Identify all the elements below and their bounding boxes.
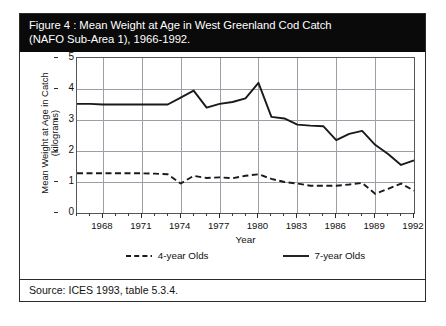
x-tick-mark-minor — [206, 213, 207, 216]
legend-label: 4-year Olds — [158, 250, 209, 261]
series-line-4-year-olds — [77, 173, 414, 193]
x-tick-mark-major — [374, 213, 375, 218]
chart-body: Mean Weight at Age in Catch (kilograms) … — [20, 52, 425, 279]
plot-wrapper: Mean Weight at Age in Catch (kilograms) … — [20, 52, 425, 279]
figure-title-bar: Figure 4 : Mean Weight at Age in West Gr… — [20, 14, 425, 52]
series-line-7-year-olds — [77, 83, 414, 165]
y-axis-ticks: 012345 — [58, 52, 74, 279]
y-tick-label: 4 — [60, 82, 74, 93]
figure-container: Figure 4 : Mean Weight at Age in West Gr… — [19, 13, 426, 302]
x-tick-mark-minor — [128, 213, 129, 216]
plot-area — [76, 57, 415, 214]
x-tick-label: 1992 — [402, 220, 423, 231]
x-tick-mark-minor — [167, 213, 168, 216]
x-tick-mark-major — [102, 213, 103, 218]
x-tick-label: 1986 — [325, 220, 346, 231]
x-tick-label: 1989 — [363, 220, 384, 231]
legend-label: 7-year Olds — [315, 250, 366, 261]
x-tick-mark-minor — [232, 213, 233, 216]
y-tick-label: 0 — [60, 206, 74, 217]
series-lines — [77, 58, 414, 213]
y-tick-mark — [54, 119, 58, 120]
x-tick-mark-major — [257, 213, 258, 218]
x-tick-mark-minor — [193, 213, 194, 216]
x-tick-label: 1968 — [91, 220, 112, 231]
y-tick-label: 3 — [60, 113, 74, 124]
x-tick-mark-minor — [115, 213, 116, 216]
y-tick-mark — [54, 57, 58, 58]
source-note: Source: ICES 1993, table 5.3.4. — [20, 280, 425, 301]
x-tick-mark-minor — [309, 213, 310, 216]
x-tick-mark-major — [413, 213, 414, 218]
x-axis-ticks — [76, 213, 413, 219]
x-axis-tick-labels: 196819711974197719801983198619891992 — [76, 220, 413, 232]
x-tick-mark-major — [219, 213, 220, 218]
x-tick-mark-minor — [322, 213, 323, 216]
x-tick-mark-minor — [283, 213, 284, 216]
y-tick-mark — [54, 150, 58, 151]
x-tick-mark-major — [141, 213, 142, 218]
y-tick-mark — [54, 88, 58, 89]
figure-title-line-2: (NAFO Sub-Area 1), 1966-1992. — [29, 33, 417, 47]
legend-item: 7-year Olds — [283, 250, 366, 261]
x-tick-mark-minor — [154, 213, 155, 216]
x-tick-mark-minor — [387, 213, 388, 216]
x-tick-mark-minor — [89, 213, 90, 216]
legend-swatch-dashed — [126, 252, 152, 260]
x-tick-label: 1971 — [130, 220, 151, 231]
x-tick-mark-minor — [400, 213, 401, 216]
x-axis-title: Year — [76, 234, 415, 245]
y-tick-label: 1 — [60, 175, 74, 186]
x-tick-mark-major — [180, 213, 181, 218]
legend-swatch-solid — [283, 252, 309, 260]
x-tick-label: 1983 — [286, 220, 307, 231]
y-tick-mark — [54, 181, 58, 182]
y-tick-label: 5 — [60, 51, 74, 62]
x-tick-mark-minor — [270, 213, 271, 216]
x-tick-label: 1974 — [169, 220, 190, 231]
x-tick-label: 1977 — [208, 220, 229, 231]
x-tick-label: 1980 — [247, 220, 268, 231]
chart-legend: 4-year Olds7-year Olds — [76, 250, 415, 261]
figure-title-line-1: Figure 4 : Mean Weight at Age in West Gr… — [29, 19, 417, 33]
x-tick-mark-major — [335, 213, 336, 218]
y-tick-mark — [54, 212, 58, 213]
x-tick-mark-minor — [361, 213, 362, 216]
y-tick-label: 2 — [60, 144, 74, 155]
x-tick-mark-minor — [348, 213, 349, 216]
x-tick-mark-major — [296, 213, 297, 218]
x-tick-mark-minor — [76, 213, 77, 216]
legend-item: 4-year Olds — [126, 250, 209, 261]
x-tick-mark-minor — [245, 213, 246, 216]
